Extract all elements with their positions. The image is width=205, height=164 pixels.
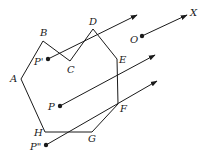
point-label: P'	[33, 56, 43, 67]
geometry-diagram: ABCDEFGHP'PP"OX	[0, 0, 205, 164]
ray-arrow	[142, 15, 187, 36]
polygon-abcdefgh	[21, 29, 118, 132]
labels-group: ABCDEFGHP'PP"OX	[9, 7, 198, 152]
vertex-label-d: D	[88, 16, 97, 27]
ray-label-x: X	[189, 7, 198, 18]
vertex-label-a: A	[9, 73, 17, 84]
vertex-label-e: E	[118, 54, 127, 65]
point-label: O	[130, 34, 138, 45]
point-dot	[140, 34, 144, 38]
point-dot	[44, 143, 48, 147]
vertex-label-c: C	[67, 64, 75, 75]
vertex-label-b: B	[39, 27, 47, 38]
rays-group	[46, 15, 187, 145]
ray-arrow	[46, 81, 157, 145]
point-label: P	[47, 101, 55, 112]
vertex-label-f: F	[119, 103, 128, 114]
vertex-label-g: G	[88, 133, 96, 144]
vertex-label-h: H	[33, 127, 43, 138]
point-dot	[58, 104, 62, 108]
point-dot	[46, 57, 50, 61]
ray-arrow	[60, 55, 155, 106]
point-label: P"	[29, 141, 41, 152]
